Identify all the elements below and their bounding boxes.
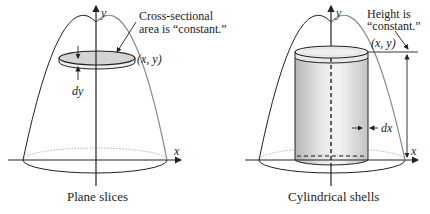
diagram-canvas: x y dy Cross-sectional area is “constant… [0, 0, 430, 214]
base-ellipse-back [23, 148, 167, 160]
point-label: (x, y) [137, 52, 162, 66]
plane-slices-figure: x y dy Cross-sectional area is “constant… [8, 6, 227, 204]
dx-label: dx [381, 121, 393, 135]
x-axis-label: x [173, 144, 180, 158]
point-label: (x, y) [371, 36, 396, 50]
x-axis-label: x [410, 144, 417, 158]
parabola-left [23, 15, 96, 160]
cylindrical-shell [295, 46, 368, 165]
cylindrical-shells-figure: x y dx Height is “constant.” (x, y) Cyli… [245, 6, 421, 204]
annotation-leader [117, 22, 136, 52]
base-ellipse-front [23, 160, 167, 173]
dy-label: dy [72, 84, 84, 98]
caption: Plane slices [67, 189, 128, 204]
disk-slice [59, 51, 135, 69]
annotation-leader [395, 31, 408, 49]
y-axis-label: y [100, 6, 107, 20]
annotation-line-2: area is “constant.” [139, 22, 227, 36]
annotation-line-1: Cross-sectional [139, 9, 214, 23]
caption: Cylindrical shells [288, 189, 379, 204]
y-axis-label: y [335, 6, 342, 20]
parabola-right [96, 15, 167, 160]
annotation-line-2: “constant.” [367, 19, 421, 33]
